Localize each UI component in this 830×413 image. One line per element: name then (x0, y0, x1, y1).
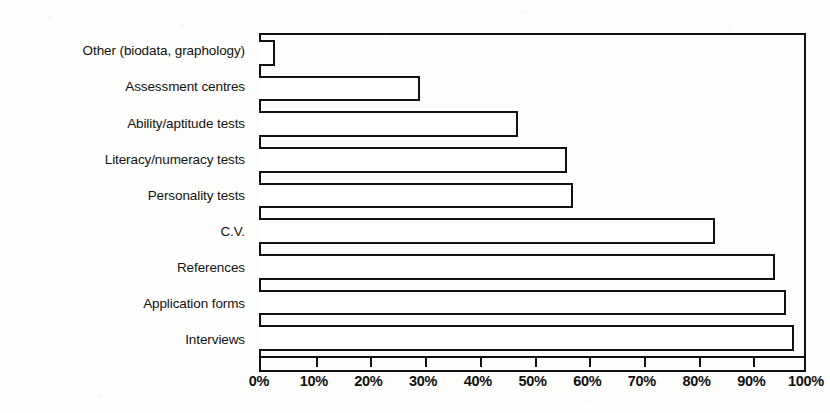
category-label: Application forms (0, 286, 252, 322)
plot-area (259, 33, 806, 358)
bar (259, 218, 715, 244)
bar (259, 147, 567, 173)
bar-row (261, 285, 804, 321)
category-label: Personality tests (0, 177, 252, 213)
x-axis-tick-label: 20% (354, 374, 382, 389)
x-axis-tick-label: 0% (249, 374, 269, 389)
bar-row (261, 213, 804, 249)
x-axis-tick (316, 358, 318, 367)
category-label: C.V. (0, 214, 252, 250)
x-axis-tick-label: 100% (788, 374, 824, 389)
bar (259, 254, 775, 280)
bar (259, 325, 794, 351)
x-axis-tick (644, 358, 646, 367)
bar-row (261, 320, 804, 356)
category-axis-labels: Other (biodata, graphology) Assessment c… (0, 33, 252, 358)
x-axis-tick (425, 358, 427, 367)
x-axis-tick-label: 50% (518, 374, 546, 389)
x-axis-tick-labels: 0%10%20%30%40%50%60%70%80%90%100% (259, 374, 806, 398)
bar (259, 290, 786, 316)
x-axis-tick (699, 358, 701, 367)
category-label: Literacy/numeracy tests (0, 141, 252, 177)
bar (259, 76, 420, 102)
x-axis-tick (589, 358, 591, 367)
bar-row (261, 106, 804, 142)
x-axis-tick-label: 60% (573, 374, 601, 389)
bar-chart: Other (biodata, graphology) Assessment c… (0, 0, 830, 413)
x-axis-tick (480, 358, 482, 367)
x-axis (259, 358, 806, 372)
x-axis-tick-label: 40% (464, 374, 492, 389)
category-label: References (0, 250, 252, 286)
bar-row (261, 35, 804, 71)
x-axis-tick-label: 30% (409, 374, 437, 389)
x-axis-tick-label: 10% (300, 374, 328, 389)
bar-series (261, 35, 804, 356)
category-label: Other (biodata, graphology) (0, 33, 252, 69)
x-axis-tick-label: 70% (628, 374, 656, 389)
bar (259, 111, 518, 137)
category-label: Ability/aptitude tests (0, 105, 252, 141)
bar-row (261, 142, 804, 178)
x-axis-tick (753, 358, 755, 367)
x-axis-tick-label: 90% (737, 374, 765, 389)
x-axis-tick (535, 358, 537, 367)
category-label: Assessment centres (0, 69, 252, 105)
bar-row (261, 249, 804, 285)
bar (259, 183, 573, 209)
bar (259, 40, 275, 66)
bar-row (261, 71, 804, 107)
bar-row (261, 178, 804, 214)
x-axis-tick-label: 80% (683, 374, 711, 389)
category-label: Interviews (0, 322, 252, 358)
x-axis-tick (370, 358, 372, 367)
